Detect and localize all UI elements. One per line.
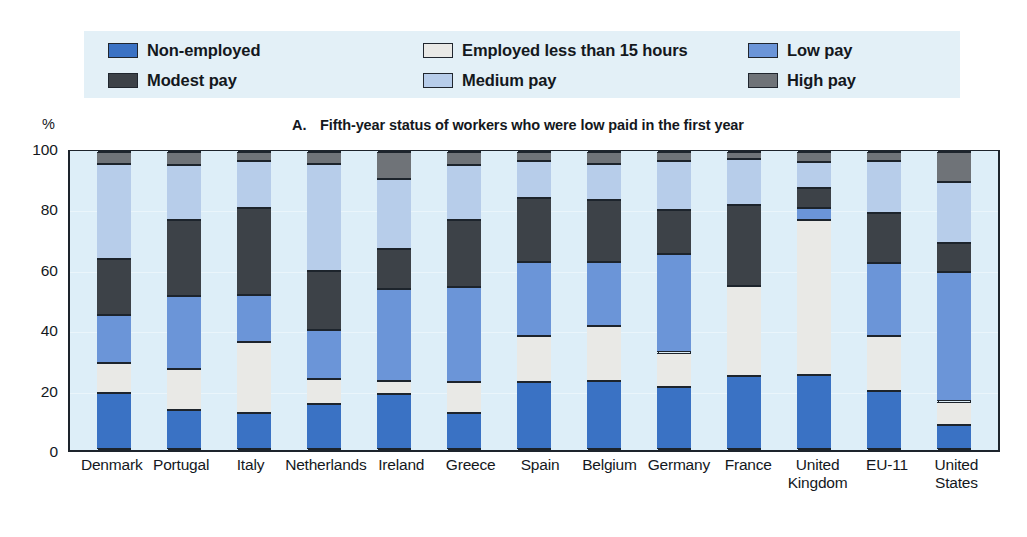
legend-label: Modest pay (147, 71, 237, 90)
bar-slot (499, 151, 569, 450)
stacked-bar[interactable] (448, 151, 481, 450)
bar-slot (709, 151, 779, 450)
bar-segment (587, 262, 621, 326)
bar-segment (587, 152, 621, 164)
bar-segment (587, 200, 621, 262)
bar-segment (167, 369, 201, 411)
legend-label: High pay (787, 71, 856, 90)
x-axis-tick-label: UnitedKingdom (783, 456, 852, 526)
bar-segment (867, 336, 901, 391)
stacked-bar[interactable] (168, 151, 201, 450)
bar-segment (657, 210, 691, 255)
x-axis-tick-label: Portugal (146, 456, 215, 526)
bar-segment (167, 410, 201, 449)
bar-segment (377, 289, 411, 381)
x-axis-tick-label-line: Belgium (575, 456, 644, 474)
bar-segment (727, 286, 761, 377)
bar-segment (377, 249, 411, 289)
x-axis-tick-label: Germany (644, 456, 713, 526)
bar-segment (167, 165, 201, 220)
bar-segment (517, 262, 551, 336)
legend-label: Employed less than 15 hours (462, 41, 688, 60)
bar-segment (447, 287, 481, 382)
bar-group (70, 151, 998, 450)
bar-segment (517, 161, 551, 198)
bar-segment (377, 179, 411, 249)
legend-item: Modest pay (108, 71, 237, 90)
x-axis-tick-label-line: EU-11 (852, 456, 921, 474)
chart-legend: Non-employedModest payEmployed less than… (84, 31, 960, 98)
x-axis-tick-label-line: Greece (436, 456, 505, 474)
bar-slot (149, 151, 219, 450)
stacked-bar[interactable] (798, 151, 831, 450)
x-axis-tick-label: EU-11 (852, 456, 921, 526)
legend-item: Medium pay (423, 71, 556, 90)
x-axis-tick-label-line: Ireland (367, 456, 436, 474)
bar-segment (167, 220, 201, 296)
bar-segment (97, 152, 131, 164)
stacked-bar[interactable] (868, 151, 901, 450)
bar-segment (797, 208, 831, 220)
bar-segment (727, 205, 761, 285)
y-axis-tick-label: 20 (12, 383, 58, 401)
legend-label: Medium pay (462, 71, 556, 90)
bar-segment (727, 159, 761, 205)
legend-item: Non-employed (108, 41, 260, 60)
x-axis-tick-label: Spain (505, 456, 574, 526)
bar-slot (569, 151, 639, 450)
stacked-bar[interactable] (238, 151, 271, 450)
x-axis-tick-label-line: Kingdom (783, 474, 852, 492)
bar-segment (937, 425, 971, 449)
legend-label: Non-employed (147, 41, 260, 60)
x-axis-tick-label-line: United (922, 456, 991, 474)
bar-segment (307, 164, 341, 271)
x-axis-tick-label-line: Denmark (77, 456, 146, 474)
legend-swatch-icon (423, 43, 453, 58)
bar-segment (447, 152, 481, 165)
stacked-bar[interactable] (588, 151, 621, 450)
bar-segment (517, 336, 551, 382)
x-axis-tick-label: Greece (436, 456, 505, 526)
x-axis-tick-label: Ireland (367, 456, 436, 526)
x-axis-tick-label-line: Portugal (146, 456, 215, 474)
x-axis-tick-label-line: Netherlands (285, 456, 366, 474)
bar-segment (237, 342, 271, 413)
bar-segment (307, 379, 341, 404)
stacked-bar[interactable] (378, 151, 411, 450)
stacked-bar[interactable] (518, 151, 551, 450)
bar-slot (849, 151, 919, 450)
plot-area (68, 150, 1000, 452)
bar-segment (517, 382, 551, 449)
bar-segment (797, 188, 831, 209)
bar-segment (237, 161, 271, 209)
stacked-bar[interactable] (938, 151, 971, 450)
bar-segment (237, 208, 271, 294)
bar-slot (639, 151, 709, 450)
bar-segment (867, 213, 901, 263)
bar-segment (587, 164, 621, 200)
panel-letter: A. (292, 117, 307, 133)
bar-segment (97, 259, 131, 315)
bar-segment (517, 152, 551, 161)
stacked-bar[interactable] (658, 151, 691, 450)
stacked-bar[interactable] (728, 151, 761, 450)
bar-segment (867, 161, 901, 213)
bar-segment (517, 198, 551, 262)
x-axis-tick-label-line: Italy (216, 456, 285, 474)
bar-segment (867, 263, 901, 336)
bar-segment (307, 330, 341, 379)
bar-segment (447, 165, 481, 220)
legend-item: Employed less than 15 hours (423, 41, 688, 60)
x-axis-tick-label-line: Spain (505, 456, 574, 474)
x-axis-tick-label: France (714, 456, 783, 526)
stacked-bar[interactable] (98, 151, 131, 450)
x-axis-tick-label: Denmark (77, 456, 146, 526)
y-axis-tick-label: 60 (12, 262, 58, 280)
legend-swatch-icon (108, 43, 138, 58)
y-axis: 100806040200 (0, 0, 68, 537)
bar-segment (97, 164, 131, 259)
stacked-bar[interactable] (308, 151, 341, 450)
x-axis-tick-label: Italy (216, 456, 285, 526)
legend-item: Low pay (748, 41, 852, 60)
x-axis-labels: DenmarkPortugalItalyNetherlandsIrelandGr… (68, 456, 1000, 526)
